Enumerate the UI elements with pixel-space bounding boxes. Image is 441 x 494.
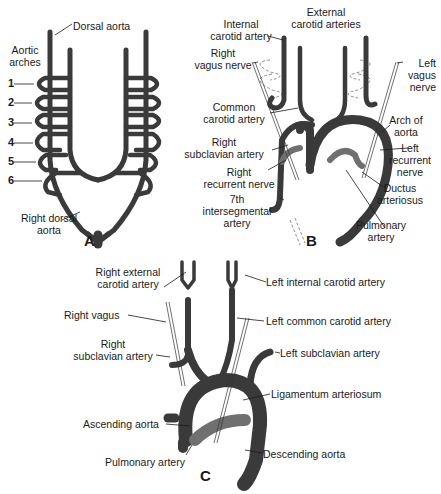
arch-number-4: 4 xyxy=(8,136,14,148)
label-ligamentum-arteriosum: Ligamentum arteriosum xyxy=(271,388,381,400)
arch-number-5: 5 xyxy=(8,155,14,167)
arch-number-6: 6 xyxy=(8,174,14,186)
arch-number-3: 3 xyxy=(8,116,14,128)
label-common-carotid-artery: Common carotid artery xyxy=(198,101,270,125)
label-right-subclavian-artery: Right subclavian artery xyxy=(178,136,270,160)
label-right-vagus: Right vagus xyxy=(64,309,119,321)
label-arch-of-aorta: Arch of aorta xyxy=(384,114,428,138)
label-left-subclavian-artery: Left subclavian artery xyxy=(280,347,380,359)
label-ascending-aorta: Ascending aorta xyxy=(83,418,159,430)
panel-c-letter: C xyxy=(200,467,211,484)
label-right-dorsal-aorta: Right dorsal aorta xyxy=(14,212,84,236)
label-aortic-arches: Aortic arches xyxy=(6,44,44,68)
panel-b-transforming-arches xyxy=(252,36,408,245)
label-internal-carotid-artery: Internal carotid artery xyxy=(208,18,274,42)
label-right-vagus-nerve: Right vagus nerve xyxy=(192,47,254,71)
diagram-canvas: .v{fill:none;stroke:#3a3a3a;stroke-linec… xyxy=(0,0,441,494)
arch-number-2: 2 xyxy=(8,96,14,108)
panel-b-letter: B xyxy=(306,232,317,249)
arch-number-1: 1 xyxy=(8,77,14,89)
label-external-carotid-arteries: External carotid arteries xyxy=(286,6,366,30)
label-pulmonary-artery-b: Pulmonary artery xyxy=(348,219,414,243)
label-7th-intersegmental-artery: 7th intersegmental artery xyxy=(200,193,274,229)
label-right-recurrent-nerve: Right recurrent nerve xyxy=(196,166,282,190)
panel-a-letter: A xyxy=(84,232,95,249)
label-pulmonary-artery-c: Pulmonary artery xyxy=(105,456,185,468)
label-left-common-carotid-artery: Left common carotid artery xyxy=(266,315,391,327)
label-descending-aorta: Descending aorta xyxy=(263,448,345,460)
label-right-external-carotid-artery: Right external carotid artery xyxy=(90,266,166,290)
label-left-recurrent-nerve: Left recurrent nerve xyxy=(384,142,436,178)
label-left-internal-carotid-artery: Left internal carotid artery xyxy=(266,276,385,288)
label-dorsal-aorta: Dorsal aorta xyxy=(73,20,130,32)
label-ductus-arteriosus: Ductus arteriosus xyxy=(372,182,428,206)
label-right-subclavian-artery-c: Right subclavian artery xyxy=(68,338,158,362)
panel-c-adult-arteries xyxy=(128,262,280,484)
label-left-vagus-nerve: Left vagus nerve xyxy=(400,57,436,93)
